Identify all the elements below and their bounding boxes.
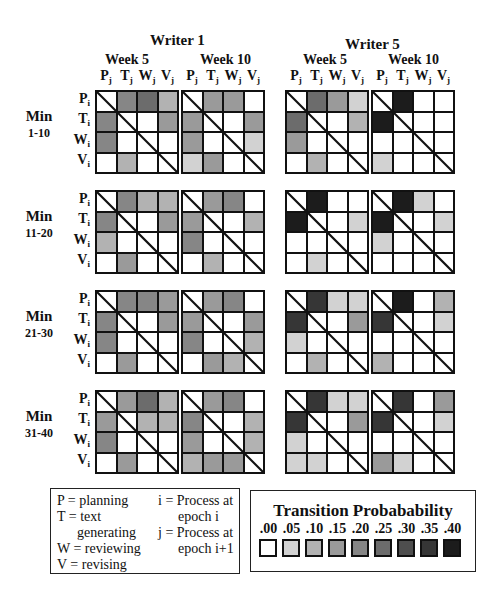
diagonal-cell — [328, 433, 347, 452]
matrix-cell — [118, 292, 137, 311]
matrix-cell — [183, 213, 202, 232]
matrix-cell — [159, 213, 178, 232]
matrix-cell — [394, 233, 413, 252]
matrix-cell — [308, 154, 327, 173]
diagonal-cell — [159, 254, 178, 273]
diagonal-cell — [435, 154, 454, 173]
w5-week10-title: Week 10 — [388, 52, 439, 68]
matrix-cell — [138, 113, 157, 132]
diagonal-cell — [349, 354, 368, 373]
matrix-cell — [308, 133, 327, 152]
matrix-cell — [183, 354, 202, 373]
matrix-cell — [328, 92, 347, 111]
matrix-cell — [435, 292, 454, 311]
diagonal-cell — [138, 233, 157, 252]
matrix-cell — [414, 313, 433, 332]
matrix-cell — [159, 233, 178, 252]
matrix-cell — [394, 392, 413, 411]
matrix-cell — [328, 354, 347, 373]
matrix-cell — [118, 92, 137, 111]
diagonal-cell — [118, 413, 137, 432]
matrix-cell — [118, 454, 137, 473]
diagonal-cell — [245, 254, 264, 273]
matrix-cell — [224, 354, 243, 373]
matrix-cell — [118, 333, 137, 352]
epoch-label: Min11-20 — [14, 208, 64, 242]
matrix-cell — [138, 454, 157, 473]
matrix-writer1-week10-epoch4 — [181, 390, 265, 474]
diagonal-cell — [287, 392, 306, 411]
matrix-cell — [97, 313, 116, 332]
matrix-cell — [97, 233, 116, 252]
matrix-cell — [414, 392, 433, 411]
matrix-cell — [245, 113, 264, 132]
diagonal-cell — [204, 113, 223, 132]
col-header-pj: Pj — [286, 68, 306, 85]
matrix-writer5-week5-epoch1 — [285, 90, 369, 174]
diagonal-cell — [373, 392, 392, 411]
matrix-cell — [287, 354, 306, 373]
probability-tick: .40 — [441, 521, 464, 537]
col-header-vj: Vj — [434, 68, 454, 85]
matrix-cell — [308, 233, 327, 252]
writer-1-title: Writer 1 — [150, 32, 205, 49]
matrix-cell — [183, 454, 202, 473]
matrix-cell — [394, 154, 413, 173]
matrix-cell — [159, 313, 178, 332]
diagonal-cell — [414, 133, 433, 152]
diagonal-cell — [328, 233, 347, 252]
w5-week5-title: Week 5 — [303, 52, 347, 68]
diagonal-cell — [373, 92, 392, 111]
row-header-pi: Pi — [68, 91, 90, 108]
col-header-wj: Wj — [137, 68, 157, 85]
matrix-cell — [349, 92, 368, 111]
matrix-cell — [224, 113, 243, 132]
diagonal-cell — [287, 292, 306, 311]
matrix-cell — [394, 192, 413, 211]
matrix-cell — [328, 292, 347, 311]
probability-swatch — [351, 539, 369, 557]
matrix-cell — [349, 213, 368, 232]
matrix-cell — [159, 413, 178, 432]
diagonal-cell — [159, 354, 178, 373]
row-header-wi: Wi — [68, 432, 90, 449]
key-text: T = text — [57, 509, 141, 525]
matrix-cell — [328, 254, 347, 273]
matrix-writer5-week5-epoch4 — [285, 390, 369, 474]
matrix-cell — [349, 133, 368, 152]
matrix-cell — [224, 454, 243, 473]
diagonal-cell — [394, 113, 413, 132]
diagonal-cell — [308, 313, 327, 332]
row-header-vi: Vi — [68, 252, 90, 269]
w1-week5-title: Week 5 — [105, 52, 149, 68]
matrix-cell — [435, 333, 454, 352]
matrix-cell — [204, 354, 223, 373]
matrix-cell — [138, 392, 157, 411]
diagonal-cell — [308, 213, 327, 232]
matrix-writer1-week10-epoch1 — [181, 90, 265, 174]
diagonal-cell — [97, 392, 116, 411]
matrix-cell — [349, 192, 368, 211]
matrix-cell — [183, 154, 202, 173]
probability-legend: Transition Probabability .00.05.10.15.20… — [250, 490, 476, 572]
matrix-cell — [373, 113, 392, 132]
probability-swatches — [259, 539, 461, 557]
matrix-cell — [308, 454, 327, 473]
diagonal-cell — [287, 92, 306, 111]
matrix-cell — [349, 392, 368, 411]
diagonal-cell — [414, 233, 433, 252]
matrix-cell — [204, 192, 223, 211]
matrix-cell — [373, 454, 392, 473]
probability-legend-title: Transition Probabability — [251, 501, 475, 521]
matrix-cell — [308, 192, 327, 211]
col-header-vj: Vj — [244, 68, 264, 85]
matrix-cell — [435, 413, 454, 432]
probability-swatch — [328, 539, 346, 557]
matrix-cell — [138, 354, 157, 373]
epoch-label: Min31-40 — [14, 408, 64, 442]
matrix-cell — [287, 154, 306, 173]
matrix-cell — [204, 392, 223, 411]
epoch-label: Min21-30 — [14, 308, 64, 342]
probability-tick: .05 — [280, 521, 303, 537]
matrix-cell — [287, 113, 306, 132]
